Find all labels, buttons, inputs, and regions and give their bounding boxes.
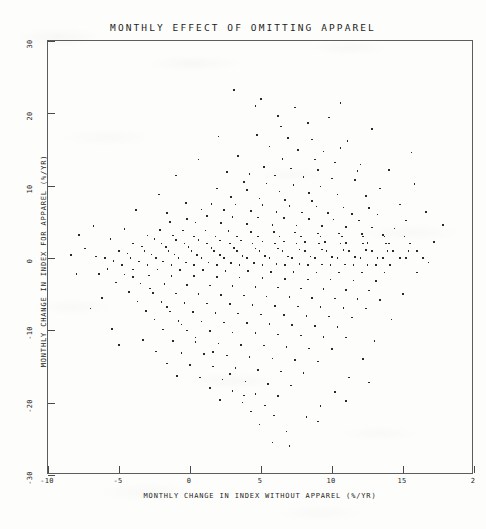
scatter-point bbox=[368, 207, 370, 209]
scatter-point bbox=[301, 212, 303, 214]
scatter-point bbox=[289, 296, 291, 298]
scatter-point bbox=[276, 263, 278, 265]
y-tick bbox=[48, 403, 55, 404]
y-tick-label: -20 bbox=[26, 399, 34, 413]
scatter-point bbox=[399, 257, 401, 259]
scatter-point bbox=[333, 219, 335, 221]
scatter-point bbox=[311, 139, 313, 141]
scatter-point bbox=[343, 207, 345, 209]
scatter-point bbox=[255, 332, 257, 334]
scatter-point bbox=[326, 250, 328, 252]
chart-title: MONTHLY EFFECT OF OMITTING APPAREL bbox=[0, 22, 486, 33]
scatter-point bbox=[334, 298, 336, 300]
x-tick-label: 15 bbox=[397, 477, 406, 485]
y-tick bbox=[48, 258, 55, 259]
scatter-point bbox=[306, 315, 308, 317]
scatter-point bbox=[168, 250, 170, 252]
scatter-point bbox=[235, 204, 237, 206]
scatter-point bbox=[341, 236, 343, 238]
scatter-point bbox=[304, 241, 306, 243]
scatter-point bbox=[199, 377, 201, 379]
scatter-point bbox=[389, 264, 391, 266]
scatter-point bbox=[195, 341, 197, 343]
scatter-point bbox=[282, 250, 284, 252]
scatter-point bbox=[232, 216, 234, 218]
scatter-point bbox=[158, 194, 160, 196]
scatter-point bbox=[279, 236, 281, 238]
scatter-point bbox=[317, 361, 319, 363]
scatter-point bbox=[209, 330, 211, 332]
scatter-point bbox=[286, 346, 288, 348]
scatter-point bbox=[297, 306, 299, 308]
scatter-point bbox=[371, 227, 373, 229]
scatter-point bbox=[137, 301, 139, 303]
scatter-point bbox=[442, 224, 444, 226]
scatter-point bbox=[337, 257, 339, 259]
scatter-point bbox=[294, 107, 296, 109]
scatter-point bbox=[252, 243, 254, 245]
scatter-point bbox=[384, 272, 386, 274]
scatter-point bbox=[361, 272, 363, 274]
scatter-point bbox=[377, 257, 379, 259]
scatter-point bbox=[255, 248, 257, 250]
scatter-point bbox=[405, 257, 407, 259]
scatter-point bbox=[340, 147, 342, 149]
scatter-point bbox=[351, 317, 353, 319]
scatter-point bbox=[127, 253, 129, 255]
scatter-point bbox=[249, 356, 251, 358]
scatter-point bbox=[233, 89, 235, 91]
scatter-point bbox=[371, 250, 373, 252]
scatter-point bbox=[218, 136, 220, 138]
scatter-point bbox=[169, 311, 171, 313]
x-axis-title: MONTHLY CHANGE IN INDEX WITHOUT APPAREL … bbox=[47, 492, 473, 500]
scatter-point bbox=[294, 359, 296, 361]
scatter-point bbox=[340, 102, 342, 104]
scatter-point bbox=[110, 238, 112, 240]
scatter-point bbox=[277, 334, 279, 336]
scatter-point bbox=[327, 212, 329, 214]
scatter-point bbox=[152, 292, 154, 294]
scatter-point bbox=[141, 246, 143, 248]
scatter-point bbox=[219, 254, 221, 256]
scatter-point bbox=[262, 264, 264, 266]
scatter-point bbox=[344, 264, 346, 266]
scatter-point bbox=[317, 421, 319, 423]
scatter-point bbox=[215, 236, 217, 238]
y-tick bbox=[48, 475, 55, 476]
scatter-point bbox=[175, 175, 177, 177]
scatter-point bbox=[287, 137, 289, 139]
y-tick bbox=[48, 41, 55, 42]
scatter-point bbox=[334, 162, 336, 164]
scatter-point bbox=[320, 236, 322, 238]
scatter-point bbox=[242, 255, 244, 257]
scatter-point bbox=[228, 230, 230, 232]
scatter-point bbox=[240, 344, 242, 346]
x-tick-label: 5 bbox=[258, 477, 263, 485]
scatter-point bbox=[348, 377, 350, 379]
scatter-point bbox=[178, 320, 180, 322]
scatter-point bbox=[243, 181, 245, 183]
scatter-point bbox=[205, 230, 207, 232]
scatter-point bbox=[343, 307, 345, 309]
scatter-point bbox=[247, 270, 249, 272]
y-tick-label: 0 bbox=[26, 259, 34, 264]
scatter-point bbox=[181, 352, 183, 354]
scatter-point bbox=[171, 264, 173, 266]
scatter-point bbox=[362, 243, 364, 245]
y-tick bbox=[48, 113, 55, 114]
scatter-point bbox=[362, 236, 364, 238]
scatter-point bbox=[293, 184, 295, 186]
scatter-point bbox=[118, 250, 120, 252]
scatter-point bbox=[206, 243, 208, 245]
scatter-point bbox=[365, 195, 367, 197]
scatter-point bbox=[166, 363, 168, 365]
scatter-point bbox=[338, 272, 340, 274]
scatter-point bbox=[277, 287, 279, 289]
scatter-point bbox=[272, 442, 274, 444]
scatter-point bbox=[283, 241, 285, 243]
x-tick-label: 2 bbox=[471, 477, 476, 485]
scatter-point bbox=[259, 250, 261, 252]
scatter-point bbox=[212, 366, 214, 368]
x-tick bbox=[332, 466, 333, 473]
scatter-point bbox=[330, 279, 332, 281]
